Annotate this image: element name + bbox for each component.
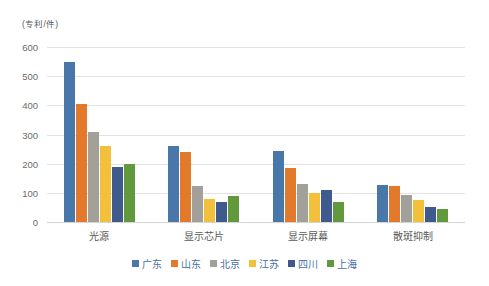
legend-item[interactable]: 江苏	[249, 256, 279, 271]
bar	[297, 184, 308, 222]
bar-chart: (专利/件) 0100200300400500600 光源显示芯片显示屏幕散斑抑…	[0, 0, 489, 286]
x-tick-label: 光源	[89, 228, 109, 243]
bar	[64, 62, 75, 222]
bar	[216, 202, 227, 222]
bar	[401, 195, 412, 222]
legend-item[interactable]: 山东	[171, 256, 201, 271]
bar	[192, 186, 203, 222]
legend-item[interactable]: 北京	[210, 256, 240, 271]
legend-swatch-icon	[249, 260, 256, 267]
legend-swatch-icon	[288, 260, 295, 267]
y-tick-label: 400	[0, 100, 38, 111]
y-tick-label: 200	[0, 158, 38, 169]
legend-label: 北京	[220, 256, 240, 271]
y-tick-label: 500	[0, 71, 38, 82]
bar	[88, 132, 99, 222]
y-tick-label: 600	[0, 42, 38, 53]
bar	[285, 168, 296, 222]
legend-label: 山东	[181, 256, 201, 271]
legend-swatch-icon	[327, 260, 334, 267]
y-axis-tick-labels: 0100200300400500600	[0, 47, 44, 222]
legend-label: 上海	[337, 256, 357, 271]
bar	[228, 196, 239, 222]
bar-series-layer	[47, 47, 465, 222]
bar	[321, 190, 332, 222]
bar	[112, 167, 123, 222]
bar	[204, 199, 215, 222]
x-tick-label: 显示屏幕	[288, 228, 328, 243]
bar	[333, 202, 344, 222]
bar-group	[47, 47, 152, 222]
legend-swatch-icon	[132, 260, 139, 267]
bar	[124, 164, 135, 222]
chart-legend: 广东山东北京江苏四川上海	[0, 256, 489, 271]
bar-group	[256, 47, 361, 222]
bar	[180, 152, 191, 222]
bar	[413, 200, 424, 222]
bar	[100, 146, 111, 222]
gridline-0	[47, 222, 465, 223]
legend-item[interactable]: 广东	[132, 256, 162, 271]
legend-label: 广东	[142, 256, 162, 271]
y-tick-label: 100	[0, 187, 38, 198]
bar	[437, 209, 448, 222]
bar	[273, 151, 284, 222]
plot-area	[47, 47, 465, 222]
legend-label: 四川	[298, 256, 318, 271]
bar	[309, 193, 320, 222]
legend-item[interactable]: 上海	[327, 256, 357, 271]
legend-item[interactable]: 四川	[288, 256, 318, 271]
y-tick-label: 300	[0, 129, 38, 140]
bar-group	[361, 47, 466, 222]
x-tick-label: 散斑抑制	[393, 228, 433, 243]
bar	[377, 185, 388, 222]
legend-swatch-icon	[210, 260, 217, 267]
bar	[389, 186, 400, 222]
bar	[76, 104, 87, 222]
bar-group	[152, 47, 257, 222]
y-tick-label: 0	[0, 217, 38, 228]
legend-label: 江苏	[259, 256, 279, 271]
bar	[425, 207, 436, 222]
bar	[168, 146, 179, 222]
legend-swatch-icon	[171, 260, 178, 267]
x-tick-label: 显示芯片	[184, 228, 224, 243]
x-axis-tick-labels: 光源显示芯片显示屏幕散斑抑制	[47, 228, 465, 244]
y-axis-unit-label: (专利/件)	[22, 17, 58, 29]
